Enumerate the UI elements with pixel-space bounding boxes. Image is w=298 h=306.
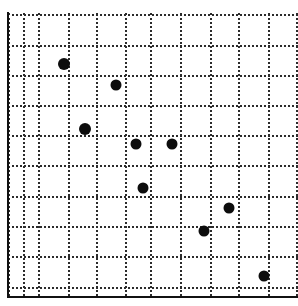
data-point-marker [111, 80, 122, 91]
data-point-marker [224, 203, 235, 214]
data-marker-layer [0, 0, 298, 306]
plot-area [0, 0, 298, 306]
data-point-marker [199, 226, 210, 237]
data-point-marker [138, 183, 149, 194]
scatter-plot-figure [0, 0, 298, 306]
data-point-marker [167, 139, 178, 150]
data-point-marker [259, 271, 270, 282]
data-point-marker [58, 58, 70, 70]
data-point-marker [79, 123, 91, 135]
data-point-marker [131, 139, 142, 150]
